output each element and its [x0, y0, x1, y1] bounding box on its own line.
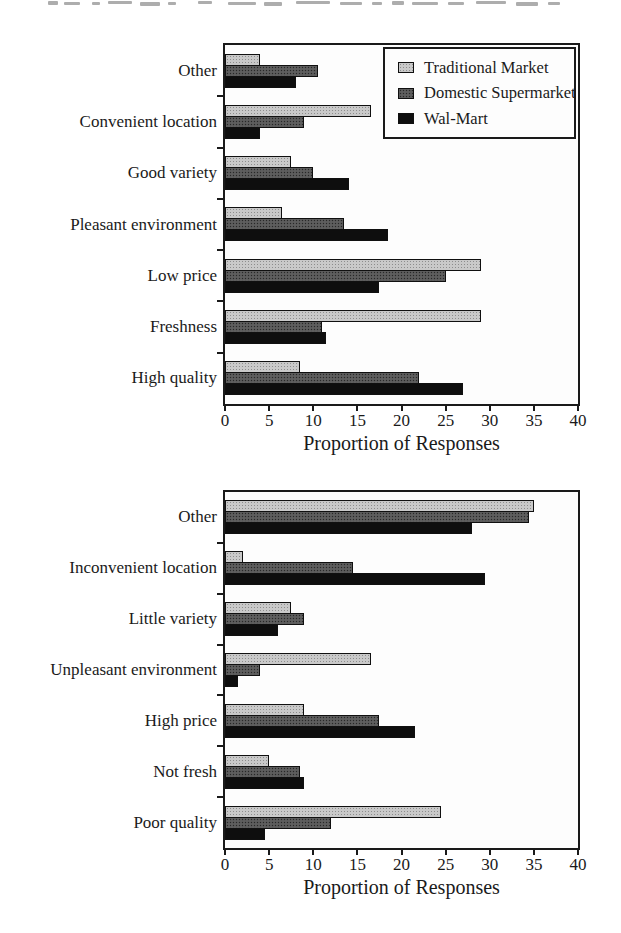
bar-wal-mart: [225, 229, 388, 241]
x-tick-label: 35: [525, 412, 542, 429]
bar-group-poor-quality: [225, 797, 578, 848]
bar-wal-mart: [225, 76, 296, 88]
bar-group-other: [225, 492, 578, 543]
x-tick-label: 20: [393, 412, 410, 429]
bar-wal-mart: [225, 127, 260, 139]
category-label: Convenient location: [80, 113, 217, 132]
bar-group-unpleasant-environment: [225, 645, 578, 696]
y-axis-tick: [217, 95, 223, 97]
category-label: High quality: [132, 369, 217, 388]
legend-box: Traditional MarketDomestic SupermarketWa…: [383, 47, 576, 139]
category-label: Unpleasant environment: [50, 661, 217, 680]
legend-item: Traditional Market: [398, 58, 570, 78]
scanned-figure-page: OtherConvenient locationGood varietyPlea…: [0, 0, 621, 933]
bar-wal-mart: [225, 522, 472, 534]
legend-label: Traditional Market: [424, 58, 549, 78]
bar-group-inconvenient-location: [225, 543, 578, 594]
bar-wal-mart: [225, 777, 304, 789]
y-axis-tick: [217, 300, 223, 302]
light-gray-stipple-swatch-icon: [398, 62, 414, 73]
bar-group-good-variety: [225, 148, 578, 199]
legend-item: Wal-Mart: [398, 109, 570, 129]
x-tick-label: 15: [349, 856, 366, 873]
y-axis-tick: [217, 249, 223, 251]
x-tick-label: 10: [305, 856, 322, 873]
x-tick-label: 20: [393, 856, 410, 873]
bar-wal-mart: [225, 675, 238, 687]
y-axis-tick: [217, 644, 223, 646]
bar-group-low-price: [225, 250, 578, 301]
x-tick-label: 40: [570, 412, 587, 429]
category-label: Poor quality: [133, 813, 217, 832]
category-label: High price: [145, 712, 217, 731]
x-tick-label: 40: [570, 856, 587, 873]
y-axis-tick: [217, 745, 223, 747]
y-axis-tick: [217, 542, 223, 544]
bar-group-freshness: [225, 301, 578, 352]
bar-wal-mart: [225, 383, 463, 395]
x-tick-label: 25: [437, 412, 454, 429]
x-tick-label: 15: [349, 412, 366, 429]
dark-gray-stipple-swatch-icon: [398, 88, 414, 99]
category-label: Little variety: [129, 610, 217, 629]
y-axis-tick: [217, 796, 223, 798]
bar-wal-mart: [225, 624, 278, 636]
bar-group-little-variety: [225, 594, 578, 645]
x-tick-label: 25: [437, 856, 454, 873]
legend-label: Domestic Supermarket: [424, 83, 576, 103]
cropped-text-remnant: [0, 0, 621, 8]
y-axis-tick: [217, 694, 223, 696]
category-label: Freshness: [150, 318, 217, 337]
x-tick-label: 0: [221, 856, 230, 873]
y-axis-tick: [217, 352, 223, 354]
solid-black-swatch-icon: [398, 113, 414, 124]
bar-wal-mart: [225, 178, 349, 190]
category-label: Inconvenient location: [69, 559, 217, 578]
bar-wal-mart: [225, 573, 485, 585]
bottom-chart-plot-area: [223, 490, 580, 850]
bar-group-high-price: [225, 695, 578, 746]
y-axis-tick: [217, 198, 223, 200]
x-tick-label: 10: [305, 412, 322, 429]
x-tick-label: 30: [481, 412, 498, 429]
bar-wal-mart: [225, 726, 415, 738]
bar-wal-mart: [225, 281, 379, 293]
y-axis-tick: [217, 593, 223, 595]
bar-group-not-fresh: [225, 746, 578, 797]
category-label: Low price: [148, 266, 217, 285]
bar-group-pleasant-environment: [225, 199, 578, 250]
x-tick-label: 35: [525, 856, 542, 873]
x-tick-label: 5: [265, 412, 274, 429]
category-label: Pleasant environment: [70, 215, 217, 234]
legend-label: Wal-Mart: [424, 109, 488, 129]
bar-group-high-quality: [225, 353, 578, 404]
category-label: Good variety: [128, 164, 217, 183]
x-axis-title: Proportion of Responses: [303, 433, 500, 453]
x-tick-label: 0: [221, 412, 230, 429]
bar-wal-mart: [225, 332, 326, 344]
bar-wal-mart: [225, 828, 265, 840]
legend-item: Domestic Supermarket: [398, 83, 570, 103]
category-label: Not fresh: [153, 762, 217, 781]
x-tick-label: 30: [481, 856, 498, 873]
x-tick-label: 5: [265, 856, 274, 873]
category-label: Other: [178, 61, 217, 80]
y-axis-tick: [217, 147, 223, 149]
x-axis-title: Proportion of Responses: [303, 877, 500, 897]
category-label: Other: [178, 508, 217, 527]
